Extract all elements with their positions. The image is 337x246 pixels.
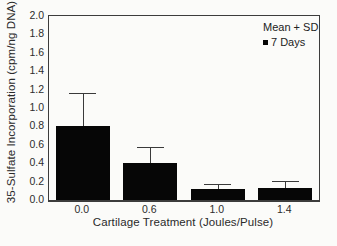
bar [56,126,110,200]
y-tick-label: 2.0 [16,9,44,21]
bar [258,188,312,200]
error-bar [285,182,286,188]
y-tick-label: 1.0 [16,101,44,113]
bar [123,163,177,200]
y-tick-label: 1.8 [16,27,44,39]
y-tick-label: 0.8 [16,119,44,131]
y-tick-label: 0.6 [16,138,44,150]
x-axis-title: Cartilage Treatment (Joules/Pulse) [48,216,318,228]
error-bar-cap [137,147,164,148]
legend-entry-label: 7 Days [271,36,305,48]
y-tick-label: 0.2 [16,175,44,187]
legend-title: Mean + SD [263,21,318,35]
error-bar-cap [204,184,231,185]
legend-entry: 7 Days [263,36,318,50]
y-tick-label: 1.4 [16,64,44,76]
error-bar-cap [272,181,299,182]
error-bar [83,94,84,126]
y-tick-label: 1.2 [16,83,44,95]
y-tick-label: 1.6 [16,46,44,58]
error-bar [218,185,219,189]
x-tick-label: 0.6 [125,203,173,215]
plot-area: Mean + SD 7 Days [48,15,320,202]
bar-chart-figure: 35-Sulfate Incorporation (cpm/ng DNA) Me… [0,0,337,246]
error-bar [150,148,151,163]
x-tick-label: 1.4 [260,203,308,215]
bar [191,189,245,200]
x-tick-label: 1.0 [193,203,241,215]
x-tick-label: 0.0 [58,203,106,215]
legend: Mean + SD 7 Days [263,21,318,49]
black-square-marker-icon [263,40,268,45]
y-tick-label: 0.4 [16,156,44,168]
error-bar-cap [69,93,96,94]
y-tick-label: 0.0 [16,193,44,205]
